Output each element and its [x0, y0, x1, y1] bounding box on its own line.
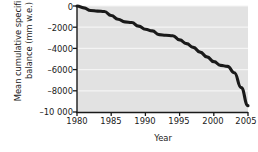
y-tick-label-6000: –6000	[31, 65, 73, 75]
y-axis-label-line-1: Mean cumulative specific net	[13, 0, 24, 106]
x-tick-label-1995: 1995	[168, 116, 189, 126]
x-tick-label-2000: 2000	[202, 116, 223, 126]
x-tick-label-2005: 2005	[235, 116, 256, 126]
x-tick-label-1990: 1990	[134, 116, 155, 126]
x-tick-label-1980: 1980	[66, 116, 87, 126]
chart-figure: Mean cumulative specific net balance (mm…	[0, 0, 258, 152]
x-tick-label-1985: 1985	[100, 116, 121, 126]
plot-background	[77, 6, 248, 112]
y-tick-label-0: 0	[31, 2, 73, 12]
y-axis-tick-labels: 0 –2000 –4000 –6000 –8000 –10 000	[28, 0, 73, 152]
y-tick-label-2000: –2000	[31, 23, 73, 33]
y-tick-label-8000: –8000	[31, 86, 73, 96]
x-axis-label: Year	[77, 133, 249, 143]
y-tick-label-4000: –4000	[31, 44, 73, 54]
